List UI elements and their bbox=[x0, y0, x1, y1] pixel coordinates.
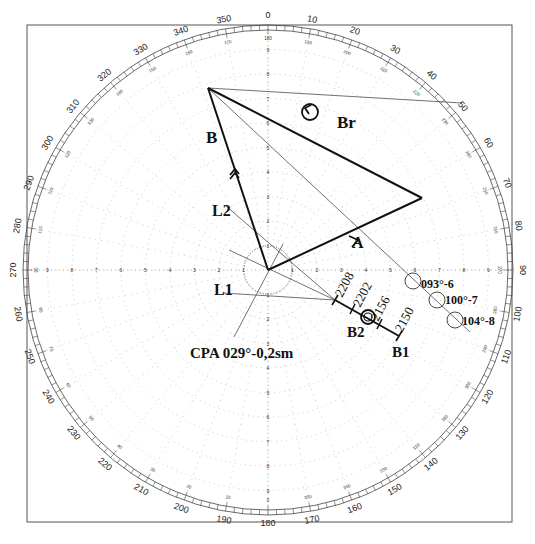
range-label: 1 bbox=[242, 267, 245, 273]
bearing-radial bbox=[114, 289, 252, 453]
range-label: 8 bbox=[71, 267, 74, 273]
range-label: 8 bbox=[267, 463, 270, 469]
line-L1 bbox=[223, 293, 335, 300]
plot-circle-093 bbox=[405, 273, 421, 289]
range-label: 9 bbox=[46, 267, 49, 273]
range-label: 6 bbox=[267, 120, 270, 126]
bearing-label: 170 bbox=[304, 513, 321, 525]
range-label: 1 bbox=[267, 292, 270, 298]
range-label: 8 bbox=[267, 71, 270, 77]
reciprocal-bearing-label: 190 bbox=[304, 39, 313, 45]
plot-label-093: 093°-6 bbox=[421, 277, 454, 291]
plot-circle-104 bbox=[447, 312, 463, 328]
bearing-radial bbox=[33, 274, 244, 311]
line-b-to-top-right bbox=[208, 88, 462, 103]
reciprocal-bearing-label: 70 bbox=[48, 346, 55, 353]
label-L2: L2 bbox=[212, 202, 231, 219]
bearing-radial bbox=[226, 294, 263, 505]
range-label: 3 bbox=[193, 267, 196, 273]
line-L2 bbox=[226, 206, 335, 300]
reciprocal-bearing-label: 0 bbox=[267, 498, 270, 503]
range-label: 9 bbox=[487, 267, 490, 273]
bearing-label: 50 bbox=[456, 99, 470, 113]
bearing-radial bbox=[272, 35, 309, 246]
range-label: 9 bbox=[267, 488, 270, 494]
bearing-label: 350 bbox=[216, 13, 233, 25]
reciprocal-bearing-label: 110 bbox=[47, 186, 54, 195]
bearing-label: 100 bbox=[511, 306, 523, 323]
bearing-label: 110 bbox=[499, 348, 513, 365]
label-A: A bbox=[352, 234, 364, 251]
reciprocal-bearing-label: 120 bbox=[64, 149, 72, 158]
range-label: 5 bbox=[267, 390, 270, 396]
range-label: 4 bbox=[267, 365, 270, 371]
range-label: 6 bbox=[267, 414, 270, 420]
range-label: 5 bbox=[144, 267, 147, 273]
time-label-2156: 2156 bbox=[367, 293, 393, 323]
bearing-label: 40 bbox=[425, 68, 439, 82]
range-label: 1 bbox=[291, 267, 294, 273]
reciprocal-bearing-label: 10 bbox=[225, 494, 231, 500]
reciprocal-bearing-label: 210 bbox=[379, 66, 388, 74]
reciprocal-bearing-label: 20 bbox=[186, 484, 193, 491]
range-label: 7 bbox=[267, 439, 270, 445]
reciprocal-bearing-label: 50 bbox=[88, 415, 95, 422]
plot-label-104: 104°-8 bbox=[462, 314, 495, 328]
bearing-label: 0 bbox=[265, 10, 270, 20]
range-label: 9 bbox=[267, 47, 270, 53]
bearing-radial bbox=[272, 294, 309, 505]
time-label-2150: 2150 bbox=[391, 304, 416, 334]
reciprocal-bearing-label: 160 bbox=[185, 49, 194, 56]
reciprocal-bearing-label: 330 bbox=[379, 465, 388, 473]
bearing-radial bbox=[276, 293, 349, 495]
reciprocal-bearing-label: 280 bbox=[492, 305, 498, 314]
bearing-radial bbox=[43, 188, 245, 261]
bearing-label: 250 bbox=[23, 348, 38, 366]
plot-frame bbox=[27, 25, 512, 522]
bearing-label: 300 bbox=[39, 134, 55, 152]
range-label: 7 bbox=[95, 267, 98, 273]
bearing-label: 200 bbox=[173, 501, 191, 516]
reciprocal-bearing-label: 270 bbox=[497, 266, 502, 274]
bearing-label: 330 bbox=[132, 41, 150, 57]
range-label: 4 bbox=[169, 267, 172, 273]
bearing-radial bbox=[226, 35, 263, 246]
vector-A bbox=[268, 198, 422, 270]
reciprocal-bearing-label: 40 bbox=[116, 443, 123, 450]
bearing-radial bbox=[292, 228, 503, 265]
bearing-radial bbox=[149, 291, 256, 477]
reciprocal-bearing-label: 130 bbox=[86, 116, 95, 125]
bearing-radial bbox=[287, 116, 451, 254]
reciprocal-bearing-label: 30 bbox=[149, 466, 156, 473]
range-label: 7 bbox=[438, 267, 441, 273]
label-B2: B2 bbox=[347, 324, 365, 340]
range-label: 2 bbox=[218, 267, 221, 273]
label-cpa: CPA 029°-0,2sm bbox=[190, 345, 294, 361]
reciprocal-bearing-label: 240 bbox=[464, 150, 472, 159]
bearing-radial bbox=[149, 63, 256, 249]
bearing-label: 190 bbox=[216, 513, 233, 525]
bearing-label: 290 bbox=[21, 174, 36, 192]
reciprocal-bearing-label: 140 bbox=[115, 88, 124, 97]
bearing-label: 60 bbox=[482, 136, 496, 150]
bearing-label: 160 bbox=[346, 501, 364, 516]
bearing-label: 340 bbox=[172, 23, 190, 38]
range-label: 8 bbox=[463, 267, 466, 273]
reciprocal-bearing-label: 80 bbox=[38, 307, 44, 313]
reciprocal-bearing-label: 350 bbox=[304, 494, 313, 500]
reciprocal-bearing-label: 220 bbox=[412, 88, 421, 97]
bearing-label: 270 bbox=[8, 262, 18, 277]
range-label: 4 bbox=[267, 169, 270, 175]
bearing-radial bbox=[287, 286, 451, 424]
bearing-radial bbox=[114, 87, 252, 251]
vector-Br bbox=[208, 88, 422, 198]
range-label: 7 bbox=[267, 96, 270, 102]
bearing-label: 280 bbox=[11, 218, 23, 235]
reciprocal-bearing-label: 200 bbox=[343, 49, 352, 56]
bearing-radial bbox=[276, 45, 349, 247]
label-B1: B1 bbox=[392, 344, 410, 360]
reciprocal-bearing-label: 340 bbox=[343, 483, 352, 490]
bearing-radial bbox=[33, 228, 244, 265]
range-label: 2 bbox=[267, 316, 270, 322]
reciprocal-bearing-label: 250 bbox=[482, 187, 489, 196]
